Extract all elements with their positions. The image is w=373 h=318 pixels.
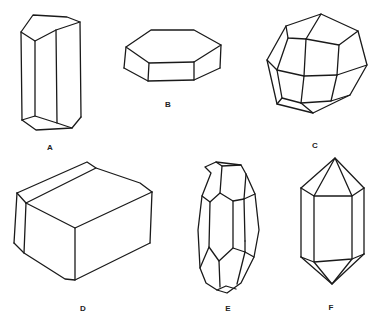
label-a: A <box>47 143 53 152</box>
label-e: E <box>225 304 230 313</box>
crystal-e <box>198 162 259 293</box>
label-b: B <box>165 100 171 109</box>
label-c: C <box>312 141 318 150</box>
crystal-c <box>267 14 367 113</box>
crystal-f <box>301 158 364 284</box>
crystal-a <box>21 15 81 130</box>
crystal-diagram <box>0 0 373 318</box>
crystal-d <box>14 162 152 280</box>
crystal-b <box>124 30 221 81</box>
label-f: F <box>329 303 334 312</box>
label-d: D <box>80 304 86 313</box>
